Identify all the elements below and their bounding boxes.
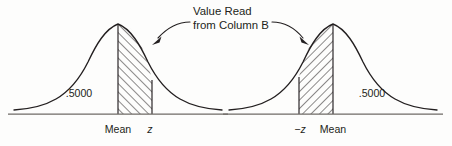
right-hatch-fill: [295, 20, 337, 116]
left-axis-label-mean: Mean: [105, 123, 132, 135]
left-area-label: .5000: [66, 87, 93, 99]
left-axis-label-z: z: [146, 123, 153, 135]
right-curve-panel: .5000 −z Mean: [223, 20, 443, 135]
figure-canvas: .5000 Mean z .5000 −z Mean: [0, 0, 452, 146]
left-hatch-fill: [116, 20, 156, 116]
callout-leader-left: [158, 22, 190, 38]
right-shaded-area: [295, 20, 337, 116]
callout-line-2: from Column B: [193, 19, 269, 31]
right-axis-label-mean: Mean: [320, 123, 347, 135]
callout-line-1: Value Read: [193, 5, 252, 17]
left-curve-panel: .5000 Mean z: [8, 20, 228, 135]
right-axis-label-negz: −z: [294, 123, 306, 135]
callout-arrowhead-right: [300, 37, 310, 46]
callout-annotation: Value Read from Column B: [152, 5, 309, 45]
normal-curve-figure: .5000 Mean z .5000 −z Mean: [0, 0, 452, 146]
callout-leader-right: [272, 22, 303, 38]
right-area-label: .5000: [359, 87, 386, 99]
callout-arrowhead-left: [152, 37, 162, 46]
left-shaded-area: [116, 20, 156, 116]
